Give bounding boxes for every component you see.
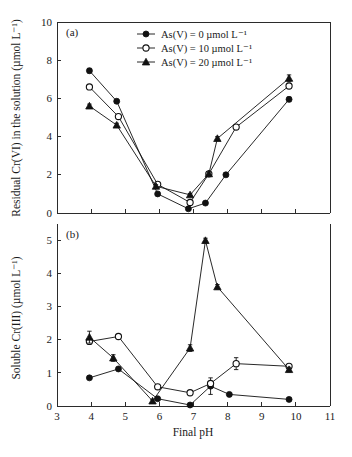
- series-b: [86, 366, 292, 408]
- panel-a-label: (a): [66, 26, 79, 39]
- marker-filled-triangle: [202, 237, 209, 244]
- data-line: [89, 78, 289, 195]
- marker-filled-circle: [86, 375, 92, 381]
- marker-open-circle: [187, 390, 193, 396]
- legend-label-0: As(V) = 0 µmol L⁻¹: [161, 29, 247, 41]
- marker-filled-circle: [115, 366, 121, 372]
- marker-filled-circle: [155, 191, 161, 197]
- marker-filled-circle: [286, 396, 292, 402]
- marker-filled-circle: [226, 391, 232, 397]
- panel-a: 0246810(a)As(V) = 0 µmol L⁻¹As(V) = 10 µ…: [41, 16, 330, 219]
- marker-filled-circle: [286, 96, 292, 102]
- panel-b-x-ticklabel: 3: [54, 410, 60, 422]
- marker-open-circle: [207, 380, 213, 386]
- panel-a-y-ticklabel: 2: [47, 168, 53, 180]
- marker-filled-triangle: [86, 333, 93, 340]
- marker-filled-triangle: [186, 344, 193, 351]
- panel-a-y-ticklabel: 6: [47, 92, 53, 104]
- marker-open-circle: [187, 199, 193, 205]
- marker-filled-triangle: [113, 121, 120, 128]
- panel-a-y-ticklabel: 4: [47, 130, 53, 142]
- marker-open-circle: [155, 384, 161, 390]
- panel-a-y-ticklabel: 8: [47, 54, 53, 66]
- marker-open-circle: [115, 113, 121, 119]
- panel-b-x-ticklabel: 5: [123, 410, 129, 422]
- data-line: [89, 71, 289, 209]
- marker-open-circle: [143, 45, 149, 51]
- marker-open-circle: [86, 84, 92, 90]
- series-b: [86, 237, 293, 404]
- panel-b-x-ticklabel: 11: [325, 410, 336, 422]
- panel-b-x-ticklabel: 6: [157, 410, 163, 422]
- panel-b: 01234534567891011(b): [47, 224, 336, 422]
- panel-b-label: (b): [66, 228, 79, 241]
- panel-b-x-ticklabel: 8: [225, 410, 231, 422]
- marker-open-circle: [286, 83, 292, 89]
- marker-filled-triangle: [285, 75, 292, 82]
- panel-a-y-ticklabel: 0: [47, 207, 53, 219]
- data-line: [89, 241, 289, 401]
- marker-filled-circle: [223, 172, 229, 178]
- marker-open-circle: [233, 361, 239, 367]
- marker-filled-circle: [143, 31, 149, 37]
- panel-b-y-ticklabel: 1: [47, 367, 53, 379]
- legend-label-2: As(V) = 20 µmol L⁻¹: [161, 57, 252, 69]
- chart-svg: 0246810(a)As(V) = 0 µmol L⁻¹As(V) = 10 µ…: [0, 0, 352, 457]
- series-a: [86, 75, 293, 198]
- panel-b-x-ticklabel: 9: [259, 410, 265, 422]
- x-axis-title: Final pH: [173, 426, 214, 439]
- panel-b-x-ticklabel: 7: [191, 410, 197, 422]
- panel-b-y-ticklabel: 4: [47, 267, 53, 279]
- panel-a-y-ticklabel: 10: [41, 16, 53, 28]
- series-b: [86, 333, 292, 395]
- panel-b-y-ticklabel: 0: [47, 400, 53, 412]
- marker-filled-circle: [202, 200, 208, 206]
- marker-filled-circle: [86, 68, 92, 74]
- panel-b-y-ticklabel: 3: [47, 300, 53, 312]
- legend-label-1: As(V) = 10 µmol L⁻¹: [161, 43, 252, 55]
- axis-titles: Final pHResidual Cr(VI) in the solution …: [10, 19, 213, 439]
- marker-filled-triangle: [214, 283, 221, 290]
- y-axis-title-panel-a: Residual Cr(VI) in the solution (µmol L⁻…: [10, 19, 23, 217]
- legend: As(V) = 0 µmol L⁻¹As(V) = 10 µmol L⁻¹As(…: [137, 29, 252, 69]
- data-line: [89, 369, 289, 405]
- marker-filled-triangle: [86, 102, 93, 109]
- marker-filled-circle: [114, 98, 120, 104]
- marker-open-circle: [115, 333, 121, 339]
- panel-b-x-ticklabel: 10: [290, 410, 302, 422]
- y-axis-title-panel-b: Soluble Cr(III) (µmol L⁻¹): [10, 256, 23, 379]
- panel-b-x-ticklabel: 4: [88, 410, 94, 422]
- panel-b-y-ticklabel: 5: [47, 234, 53, 246]
- marker-filled-circle: [185, 206, 191, 212]
- series-a: [86, 68, 292, 212]
- marker-filled-circle: [187, 402, 193, 408]
- panel-b-y-ticklabel: 2: [47, 333, 53, 345]
- figure-container: 0246810(a)As(V) = 0 µmol L⁻¹As(V) = 10 µ…: [0, 0, 352, 457]
